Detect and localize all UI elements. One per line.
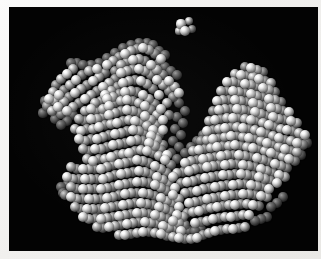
render-canvas: [9, 7, 318, 251]
detached-atom-cluster: [9, 7, 318, 251]
ligand-atom-sphere: [185, 17, 193, 25]
molecule-blur-wrapper: [9, 7, 318, 251]
figure-panel: [0, 0, 321, 259]
ligand-atom-sphere: [180, 26, 190, 36]
